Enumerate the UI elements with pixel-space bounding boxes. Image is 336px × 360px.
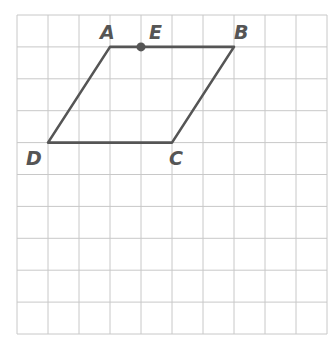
point-e-marker (137, 42, 146, 51)
label-c: C (169, 147, 183, 169)
label-e: E (149, 21, 162, 43)
label-d: D (26, 147, 42, 169)
grid (17, 15, 327, 334)
label-a: A (98, 21, 115, 43)
label-b: B (234, 21, 248, 43)
grid-diagram: A E B C D (0, 0, 336, 360)
